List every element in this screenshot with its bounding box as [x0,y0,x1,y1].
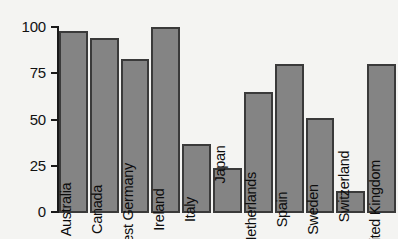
bar-category-label: Switzerland [336,151,351,223]
bar-group: Canada [90,20,119,213]
plot-area: AustraliaCanadaWest GermanyIrelandItalyJ… [59,20,398,213]
bar-category-label: Japan [213,145,228,183]
bar-category-label: Australia [59,182,74,236]
bar-group: Australia [59,20,88,213]
bar-chart: 100 75 50 25 0 AustraliaCanadaWest Germa… [0,0,398,239]
bar-group: Ireland [151,20,180,213]
bar-group: Japan [213,20,242,213]
bar-category-label: Canada [90,185,105,234]
y-tick-mark-75 [51,72,57,74]
bar-category-label: West Germany [121,163,136,239]
bar-group: United Kingdom [367,20,396,213]
bar-group: West Germany [121,20,150,213]
bar-group: Sweden [306,20,335,213]
bar-group: Switzerland [336,20,365,213]
y-tick-label-75: 75 [0,65,46,80]
bar-category-label: Sweden [305,184,320,235]
y-tick-mark-100 [51,26,57,28]
y-tick-label-100: 100 [0,19,46,34]
bar-group: Italy [182,20,211,213]
bar-category-label: Spain [275,191,290,227]
y-tick-mark-25 [51,165,57,167]
y-tick-mark-0 [51,211,57,213]
y-tick-mark-50 [51,119,57,121]
y-tick-label-25: 25 [0,158,46,173]
bar-group: Spain [275,20,304,213]
y-tick-label-50: 50 [0,112,46,127]
y-tick-label-0: 0 [0,204,46,219]
bar-group: Netherlands [244,20,273,213]
bar[interactable] [151,27,180,213]
bar-category-label: United Kingdom [367,160,382,239]
bar-category-label: Italy [182,196,197,221]
bar-category-label: Netherlands [244,172,259,239]
bar-category-label: Ireland [151,188,166,230]
